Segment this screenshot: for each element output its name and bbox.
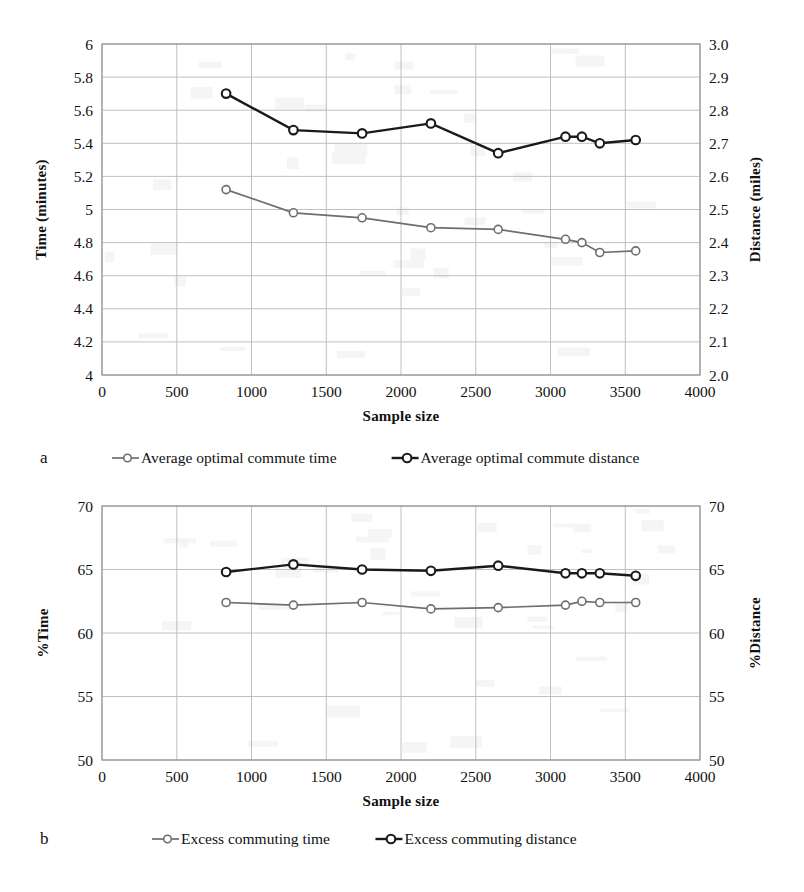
data-point	[578, 132, 587, 141]
svg-text:2.8: 2.8	[709, 102, 729, 119]
svg-text:4: 4	[85, 367, 93, 384]
svg-text:2000: 2000	[386, 383, 417, 400]
data-point	[494, 149, 503, 158]
svg-text:5: 5	[85, 201, 93, 218]
data-point	[427, 605, 435, 613]
svg-text:1500: 1500	[311, 768, 342, 785]
data-point	[358, 599, 366, 607]
legend-label: Excess commuting distance	[404, 830, 576, 847]
svg-text:2500: 2500	[460, 768, 491, 785]
figure-two-panel-line-charts: 44.24.44.64.855.25.45.65.862.02.12.22.32…	[0, 0, 804, 892]
data-point	[222, 186, 230, 194]
y-axis-left-title: Time (minutes)	[33, 159, 50, 259]
svg-text:1000: 1000	[236, 383, 267, 400]
legend-label: Average optimal commute time	[141, 449, 337, 466]
data-point	[494, 225, 502, 233]
svg-text:70: 70	[78, 498, 94, 515]
chart-b-canvas: 5055606570505560657005001000150020002500…	[0, 470, 804, 892]
data-point	[358, 214, 366, 222]
legend-item[interactable]: Average optimal commute distance	[392, 449, 640, 466]
legend-label: Excess commuting time	[181, 830, 330, 847]
x-axis-title: Sample size	[363, 793, 440, 809]
svg-text:5.2: 5.2	[74, 168, 93, 185]
data-point	[562, 601, 570, 609]
data-point	[427, 119, 436, 128]
panel-letter: b	[40, 829, 49, 848]
svg-text:2.3: 2.3	[709, 267, 729, 284]
data-point	[596, 569, 605, 578]
data-point	[631, 136, 640, 145]
data-point	[222, 568, 231, 577]
data-point	[561, 132, 570, 141]
svg-text:500: 500	[165, 768, 189, 785]
svg-text:2000: 2000	[386, 768, 417, 785]
svg-text:2.6: 2.6	[709, 168, 729, 185]
data-point	[222, 89, 231, 98]
legend-marker	[387, 835, 396, 844]
y-axis-right-ticks: 5055606570	[709, 498, 725, 769]
data-point	[632, 247, 640, 255]
svg-text:4.8: 4.8	[74, 234, 94, 251]
legend-marker	[124, 454, 132, 462]
x-axis-ticks: 05001000150020002500300035004000	[98, 768, 716, 785]
legend-marker	[403, 454, 412, 463]
chart-panel-a: 44.24.44.64.855.25.45.65.862.02.12.22.32…	[0, 0, 804, 490]
svg-text:0: 0	[98, 383, 106, 400]
chart-panel-b: 5055606570505560657005001000150020002500…	[0, 470, 804, 892]
panel-letter: a	[40, 448, 48, 467]
data-point	[494, 604, 502, 612]
svg-text:3000: 3000	[535, 768, 566, 785]
svg-text:1000: 1000	[236, 768, 267, 785]
legend: Average optimal commute timeAverage opti…	[112, 449, 640, 466]
y-axis-right-ticks: 2.02.12.22.32.42.52.62.72.82.93.0	[709, 36, 729, 384]
svg-text:2500: 2500	[460, 383, 491, 400]
legend-item[interactable]: Excess commuting time	[152, 830, 330, 847]
svg-text:5.6: 5.6	[74, 102, 94, 119]
data-point	[562, 235, 570, 243]
svg-text:55: 55	[709, 688, 725, 705]
legend: Excess commuting timeExcess commuting di…	[152, 830, 577, 847]
svg-text:60: 60	[709, 625, 725, 642]
svg-text:55: 55	[78, 688, 94, 705]
svg-text:6: 6	[85, 36, 93, 53]
svg-text:5.4: 5.4	[74, 135, 94, 152]
svg-text:4.4: 4.4	[74, 300, 94, 317]
x-axis-title: Sample size	[363, 408, 440, 424]
svg-text:60: 60	[78, 625, 94, 642]
data-point	[222, 599, 230, 607]
y-axis-left-title: %Time	[35, 608, 51, 657]
svg-text:2.0: 2.0	[709, 367, 729, 384]
data-point	[358, 565, 367, 574]
data-point	[578, 569, 587, 578]
svg-text:2.9: 2.9	[709, 69, 729, 86]
y-axis-right-title: %Distance	[747, 597, 763, 669]
data-point	[596, 249, 604, 257]
svg-text:500: 500	[165, 383, 189, 400]
svg-text:5.8: 5.8	[74, 69, 94, 86]
legend-item[interactable]: Excess commuting distance	[375, 830, 576, 847]
svg-text:4.6: 4.6	[74, 267, 94, 284]
svg-text:4000: 4000	[685, 383, 716, 400]
legend-item[interactable]: Average optimal commute time	[112, 449, 337, 466]
data-point	[358, 129, 367, 138]
y-axis-left-ticks: 44.24.44.64.855.25.45.65.86	[74, 36, 94, 384]
svg-text:70: 70	[709, 498, 725, 515]
data-point	[289, 126, 298, 135]
data-point	[578, 239, 586, 247]
data-point	[596, 139, 605, 148]
data-point	[578, 597, 586, 605]
data-point	[596, 599, 604, 607]
svg-text:50: 50	[709, 752, 725, 769]
svg-text:2.7: 2.7	[709, 135, 729, 152]
data-point	[289, 209, 297, 217]
svg-text:65: 65	[78, 561, 94, 578]
svg-text:65: 65	[709, 561, 725, 578]
chart-a-canvas: 44.24.44.64.855.25.45.65.862.02.12.22.32…	[0, 0, 804, 490]
y-axis-left-ticks: 5055606570	[78, 498, 94, 769]
svg-text:1500: 1500	[311, 383, 342, 400]
legend-label: Average optimal commute distance	[421, 449, 640, 466]
data-point	[561, 569, 570, 578]
svg-text:3000: 3000	[535, 383, 566, 400]
svg-text:4.2: 4.2	[74, 333, 93, 350]
svg-text:0: 0	[98, 768, 106, 785]
